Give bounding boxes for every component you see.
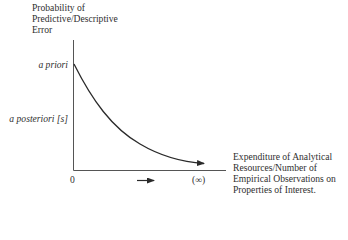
x-axis-label-line: Empirical Observations on [233,173,336,184]
x-tick-infinity: (∞) [192,174,205,185]
x-axis-label: Expenditure of Analytical Resources/Numb… [233,151,336,195]
error-probability-curve [74,64,204,164]
x-axis-label-line: Properties of Interest. [233,184,336,195]
x-tick-zero: 0 [70,174,75,185]
x-axis-label-line: Expenditure of Analytical [233,151,336,162]
x-axis-label-line: Resources/Number of [233,162,336,173]
